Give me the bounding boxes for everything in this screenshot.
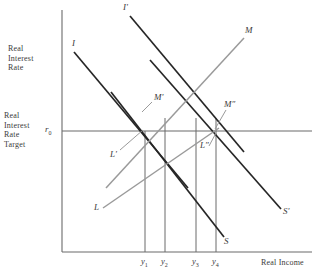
curve-label-I-prime: I' xyxy=(123,2,128,12)
tick-label-y2: y2 xyxy=(161,256,168,268)
tick-label-y1: y1 xyxy=(141,256,148,268)
curve-I-prime xyxy=(130,16,244,152)
tick-label-y3: y3 xyxy=(192,256,199,268)
curve-label-M-prime: M' xyxy=(154,92,163,102)
curve-label-L-prime: L' xyxy=(110,149,117,159)
curve-label-M: M xyxy=(245,25,253,35)
y-axis-label-real-interest-rate: Real Interest Rate xyxy=(8,44,56,73)
tick-label-y4: y4 xyxy=(212,256,219,268)
curve-label-S: S xyxy=(224,236,229,246)
tick-y4-sub: 4 xyxy=(216,262,219,268)
tick-y1-sub: 1 xyxy=(145,262,148,268)
curve-label-L: L xyxy=(94,202,99,212)
x-axis-label-real-income: Real Income xyxy=(261,258,319,268)
r0-axis-label: r0 xyxy=(45,124,52,136)
curve-label-I: I xyxy=(72,38,75,48)
r0-subscript: 0 xyxy=(49,130,52,136)
leader-M-prime xyxy=(142,102,152,112)
curve-label-S-prime: S' xyxy=(283,206,289,216)
curve-label-L-double-prime: L″ xyxy=(200,140,209,150)
tick-y2-sub: 2 xyxy=(165,262,168,268)
tick-y3-sub: 3 xyxy=(196,262,199,268)
leader-L-prime xyxy=(120,130,143,150)
curve-label-M-double-prime: M″ xyxy=(224,99,235,109)
